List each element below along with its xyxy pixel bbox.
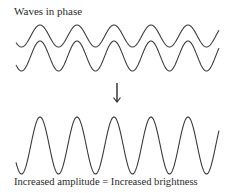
resultant-wave [16, 117, 219, 174]
wave-diagram [0, 0, 234, 193]
down-arrow-icon [114, 83, 121, 102]
diagram-caption: Increased amplitude = Increased brightne… [14, 176, 198, 187]
diagram: Waves in phase Increased amplitude = Inc… [0, 0, 234, 193]
input-wave-2 [16, 41, 219, 71]
